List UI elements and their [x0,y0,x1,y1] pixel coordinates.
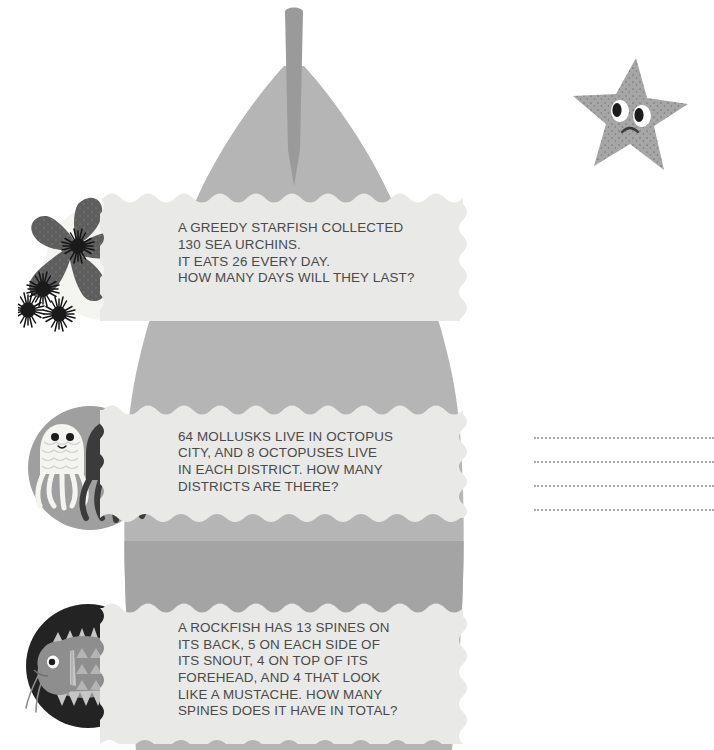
question-banner: A ROCKFISH HAS 13 SPINES ON ITS BACK, 5 … [100,596,472,744]
question-text: A GREEDY STARFISH COLLECTED 130 SEA URCH… [100,186,472,321]
problem-row: 64 MOLLUSKS LIVE IN OCTOPUS CITY, AND 8 … [0,398,714,540]
shell-spire-shape [285,8,303,187]
question-text: 64 MOLLUSKS LIVE IN OCTOPUS CITY, AND 8 … [100,398,472,526]
sad-starfish-mascot-icon [568,52,693,177]
question-banner: 64 MOLLUSKS LIVE IN OCTOPUS CITY, AND 8 … [100,398,472,526]
worksheet-page: A GREEDY STARFISH COLLECTED 130 SEA URCH… [0,0,714,750]
problem-row: A ROCKFISH HAS 13 SPINES ON ITS BACK, 5 … [0,596,714,750]
question-text: A ROCKFISH HAS 13 SPINES ON ITS BACK, 5 … [100,596,472,744]
problem-row: A GREEDY STARFISH COLLECTED 130 SEA URCH… [0,186,714,336]
question-banner: A GREEDY STARFISH COLLECTED 130 SEA URCH… [100,186,472,321]
